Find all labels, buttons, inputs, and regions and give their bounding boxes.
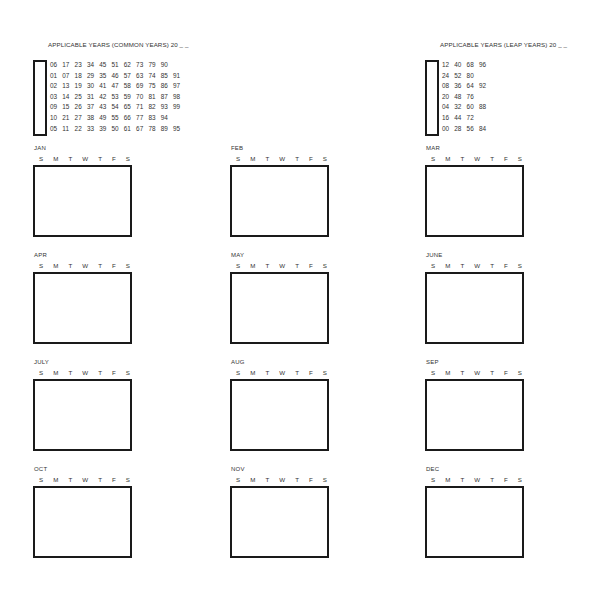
weekday-header: SMTWTFS — [34, 153, 134, 165]
year-value: 97 — [173, 81, 185, 92]
month-july: JULYSMTWTFS — [34, 357, 134, 451]
month-entry-box[interactable] — [425, 379, 524, 451]
month-entry-box[interactable] — [425, 486, 524, 558]
weekday-header: SMTWTFS — [231, 260, 331, 272]
weekday-label: F — [112, 474, 116, 486]
weekday-label: T — [295, 260, 299, 272]
weekday-label: W — [82, 153, 88, 165]
month-entry-box[interactable] — [425, 165, 524, 237]
month-entry-box[interactable] — [33, 165, 132, 237]
weekday-label: S — [431, 474, 435, 486]
year-value: 30 — [87, 81, 99, 92]
year-value: 81 — [148, 92, 160, 103]
weekday-label: T — [98, 153, 102, 165]
weekday-label: T — [68, 153, 72, 165]
year-value: 31 — [87, 92, 99, 103]
weekday-label: M — [53, 367, 58, 379]
year-value: 36 — [454, 81, 466, 92]
year-value: 67 — [136, 124, 148, 135]
year-value: 28 — [454, 124, 466, 135]
month-aug: AUGSMTWTFS — [231, 357, 331, 451]
month-entry-box[interactable] — [230, 165, 329, 237]
weekday-label: T — [265, 474, 269, 486]
weekday-label: S — [431, 153, 435, 165]
weekday-label: T — [460, 153, 464, 165]
month-label: FEB — [231, 143, 331, 153]
leap-years-row: 08366492 — [442, 81, 491, 92]
leap-years-row: 00285684 — [442, 124, 491, 135]
month-entry-box[interactable] — [230, 379, 329, 451]
common-years-row: 0511223339506167788995 — [50, 124, 185, 135]
weekday-label: S — [518, 367, 522, 379]
weekday-label: F — [309, 153, 313, 165]
month-label: JAN — [34, 143, 134, 153]
year-value: 09 — [50, 102, 62, 113]
weekday-header: SMTWTFS — [34, 367, 134, 379]
year-value: 26 — [75, 102, 87, 113]
year-value — [479, 71, 491, 82]
weekday-label: T — [460, 474, 464, 486]
year-value: 51 — [111, 60, 123, 71]
year-value: 37 — [87, 102, 99, 113]
year-value: 83 — [148, 113, 160, 124]
common-years-entry-box[interactable] — [33, 60, 47, 136]
leap-years-list: 1240689624528008366492204876043260881644… — [442, 60, 491, 134]
month-entry-box[interactable] — [230, 272, 329, 344]
month-entry-box[interactable] — [230, 486, 329, 558]
weekday-label: T — [295, 367, 299, 379]
weekday-label: M — [250, 367, 255, 379]
year-value: 35 — [99, 71, 111, 82]
month-entry-box[interactable] — [33, 379, 132, 451]
leap-years-row: 164472 — [442, 113, 491, 124]
weekday-label: W — [82, 474, 88, 486]
weekday-label: S — [126, 260, 130, 272]
month-entry-box[interactable] — [425, 272, 524, 344]
weekday-label: M — [250, 260, 255, 272]
month-label: JULY — [34, 357, 134, 367]
year-value: 54 — [111, 102, 123, 113]
year-value: 94 — [161, 113, 173, 124]
weekday-label: T — [98, 474, 102, 486]
year-value: 00 — [442, 124, 454, 135]
year-value: 86 — [161, 81, 173, 92]
weekday-label: T — [490, 260, 494, 272]
year-value: 22 — [75, 124, 87, 135]
year-value: 10 — [50, 113, 62, 124]
weekday-label: W — [279, 474, 285, 486]
year-value: 74 — [148, 71, 160, 82]
year-value: 15 — [62, 102, 74, 113]
weekday-label: S — [518, 260, 522, 272]
common-years-row: 0915263743546571829399 — [50, 102, 185, 113]
month-june: JUNESMTWTFS — [426, 250, 526, 344]
month-label: AUG — [231, 357, 331, 367]
weekday-label: F — [112, 367, 116, 379]
month-entry-box[interactable] — [33, 486, 132, 558]
weekday-label: F — [309, 474, 313, 486]
month-entry-box[interactable] — [33, 272, 132, 344]
year-value: 16 — [442, 113, 454, 124]
weekday-label: S — [39, 260, 43, 272]
month-oct: OCTSMTWTFS — [34, 464, 134, 558]
weekday-label: S — [236, 260, 240, 272]
year-value: 32 — [454, 102, 466, 113]
common-years-row: 0213193041475869758697 — [50, 81, 185, 92]
year-value — [173, 113, 185, 124]
month-feb: FEBSMTWTFS — [231, 143, 331, 237]
year-value: 96 — [479, 60, 491, 71]
weekday-label: S — [236, 474, 240, 486]
leap-years-row: 245280 — [442, 71, 491, 82]
leap-years-entry-box[interactable] — [425, 60, 439, 136]
year-value: 53 — [111, 92, 123, 103]
year-value: 24 — [442, 71, 454, 82]
weekday-label: M — [250, 474, 255, 486]
weekday-label: S — [236, 367, 240, 379]
weekday-label: T — [490, 474, 494, 486]
year-value: 02 — [50, 81, 62, 92]
year-value: 88 — [479, 102, 491, 113]
year-value: 65 — [124, 102, 136, 113]
year-value: 08 — [442, 81, 454, 92]
weekday-label: S — [39, 153, 43, 165]
year-value: 63 — [136, 71, 148, 82]
year-value: 84 — [479, 124, 491, 135]
year-value: 71 — [136, 102, 148, 113]
